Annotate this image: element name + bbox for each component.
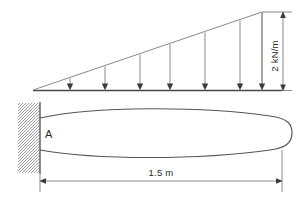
load-arrow (67, 78, 73, 90)
load-arrow (202, 32, 208, 90)
support-point-label: A (45, 128, 53, 140)
load-arrow (167, 44, 173, 90)
load-intensity-label: 2 kN/m (269, 40, 280, 71)
span-length-label: 1.5 m (149, 167, 174, 178)
beam-elevation (18, 102, 292, 192)
load-arrow (102, 67, 108, 91)
fixed-support-wall (18, 102, 40, 174)
diagram-canvas: 2 kN/m 1.5 m A (0, 0, 304, 202)
load-arrow (137, 55, 143, 91)
load-intensity-ramp (33, 12, 262, 90)
load-arrow-group (67, 13, 265, 90)
load-arrow (237, 21, 243, 91)
load-arrow (259, 13, 265, 90)
beam-load-diagram: 2 kN/m 1.5 m A (0, 0, 304, 202)
distributed-load-diagram (33, 11, 292, 91)
beam-outline (40, 109, 292, 158)
wall-hatching (18, 103, 40, 173)
